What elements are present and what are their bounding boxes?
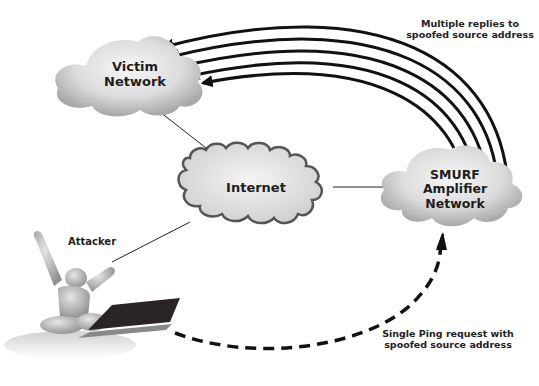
replies-annotation: Multiple replies to spoofed source addre…	[405, 19, 535, 41]
internet-label-text: Internet	[216, 181, 296, 196]
victim-network-label: Victim Network	[95, 60, 175, 90]
edge-attacker-internet	[112, 222, 190, 262]
attacker-figure	[4, 231, 180, 359]
amplifier-label-line2: Amplifier	[412, 182, 498, 196]
victim-label-line1: Victim	[95, 60, 175, 75]
amplifier-label-line1: SMURF	[412, 168, 498, 182]
attacker-label-text: Attacker	[68, 236, 116, 248]
attacker-label: Attacker	[68, 236, 116, 248]
victim-label-line2: Network	[95, 75, 175, 90]
replies-annotation-line2: spoofed source address	[405, 30, 535, 41]
amplifier-label-line3: Network	[412, 197, 498, 211]
internet-label: Internet	[216, 181, 296, 196]
request-annotation: Single Ping request with spoofed source …	[378, 329, 518, 351]
request-annotation-line2: spoofed source address	[378, 340, 518, 351]
smurf-diagram: Victim Network Internet SMURF Amplifier …	[0, 0, 539, 386]
amplifier-network-label: SMURF Amplifier Network	[412, 168, 498, 211]
